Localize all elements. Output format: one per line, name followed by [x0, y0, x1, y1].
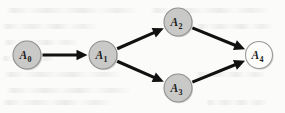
edge-A1-A3 [117, 61, 155, 78]
node-label-sub-A4: 4 [260, 54, 264, 63]
arrowhead-A0-A1 [77, 50, 88, 60]
node-label-sub-A3: 3 [179, 87, 183, 96]
node-A4[interactable]: A4 [246, 42, 274, 70]
node-A3[interactable]: A3 [164, 74, 193, 103]
edge-A1-A2 [117, 32, 155, 49]
node-label-sub-A0: 0 [28, 54, 32, 63]
node-A0[interactable]: A0 [13, 41, 42, 70]
edges-group [43, 28, 246, 82]
edge-A2-A4 [192, 28, 236, 46]
graph-canvas: A0A1A2A3A4 [0, 0, 285, 113]
edge-A3-A4 [192, 64, 236, 82]
node-A1[interactable]: A1 [89, 41, 118, 70]
node-label-sub-A2: 2 [179, 21, 183, 30]
graph-figure: A0A1A2A3A4 [0, 0, 285, 113]
node-A2[interactable]: A2 [164, 8, 193, 37]
node-label-sub-A1: 1 [104, 54, 108, 63]
